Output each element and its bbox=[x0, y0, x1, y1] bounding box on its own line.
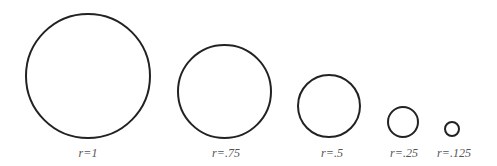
circle-r-05 bbox=[297, 74, 361, 138]
circle-r-025 bbox=[387, 106, 419, 138]
circle-r-1 bbox=[25, 13, 151, 139]
circle-r-0125 bbox=[444, 121, 460, 137]
circle-label-r-075: r=.75 bbox=[212, 147, 240, 159]
circle-radius-diagram: r=1 r=.75 r=.5 r=.25 r=.125 bbox=[0, 0, 497, 166]
circle-r-075 bbox=[177, 44, 272, 139]
circle-label-r-05: r=.5 bbox=[321, 147, 343, 159]
circle-label-r-1: r=1 bbox=[79, 147, 98, 159]
circle-label-r-025: r=.25 bbox=[390, 147, 418, 159]
circle-label-r-0125: r=.125 bbox=[437, 147, 471, 159]
